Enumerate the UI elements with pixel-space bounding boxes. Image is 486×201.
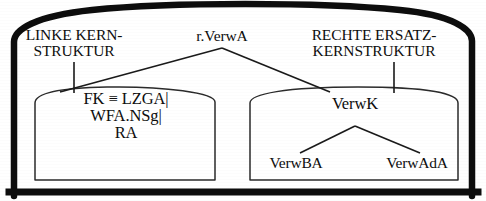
node-verwada-label: VerwAdA <box>386 155 447 171</box>
apex-node-r-verwa: r.VerwA <box>196 28 247 44</box>
node-verwba-label: VerwBA <box>269 155 322 171</box>
caption-left-line2: STRUKTUR <box>26 43 123 59</box>
left-box-line-2: WFA.NSg| <box>84 107 169 124</box>
apex-node-label: r.VerwA <box>196 28 247 44</box>
node-verwk: VerwK <box>332 95 378 112</box>
caption-left-line1: LINKE KERN- <box>26 27 123 43</box>
caption-right-structure: RECHTE ERSATZ- KERNSTRUKTUR <box>312 27 437 59</box>
node-verwada: VerwAdA <box>386 155 447 171</box>
caption-right-line2: KERNSTRUKTUR <box>312 43 437 59</box>
node-verwba: VerwBA <box>269 155 322 171</box>
caption-right-line1: RECHTE ERSATZ- <box>312 27 437 43</box>
left-box-content: FK ≡ LZGA| WFA.NSg| RA <box>84 90 169 141</box>
node-verwk-label: VerwK <box>332 95 378 112</box>
left-box-line-3: RA <box>84 124 169 141</box>
syntax-tree-figure: LINKE KERN- STRUKTUR r.VerwA RECHTE ERSA… <box>0 0 486 201</box>
left-box-line-1: FK ≡ LZGA| <box>84 90 169 107</box>
caption-left-structure: LINKE KERN- STRUKTUR <box>26 27 123 59</box>
